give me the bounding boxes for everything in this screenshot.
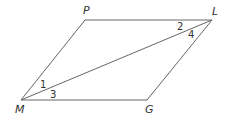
vertex-label-P: P bbox=[83, 4, 90, 17]
angle-label-3: 3 bbox=[50, 89, 56, 100]
vertex-label-G: G bbox=[145, 103, 154, 116]
diagram-canvas: P L G M 1 3 2 4 bbox=[0, 0, 231, 120]
angle-label-4: 4 bbox=[188, 29, 194, 40]
vertex-label-L: L bbox=[212, 5, 218, 18]
parallelogram-diagram: P L G M 1 3 2 4 bbox=[0, 0, 231, 120]
vertex-label-M: M bbox=[15, 103, 25, 116]
angle-label-1: 1 bbox=[40, 79, 46, 90]
diagonal-ML bbox=[21, 20, 212, 100]
angle-label-2: 2 bbox=[177, 21, 183, 32]
